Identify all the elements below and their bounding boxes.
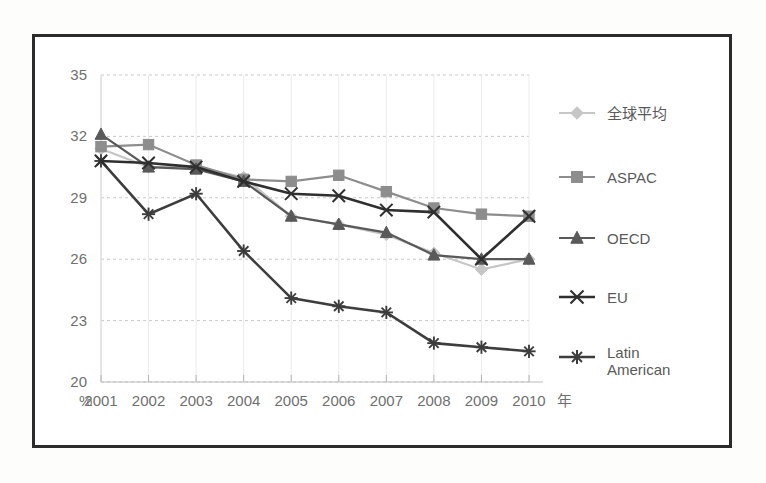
legend-label: 全球平均 [607, 105, 667, 122]
y-axis-tick-label: 35 [70, 66, 87, 83]
legend-label: EU [607, 289, 628, 306]
legend-label: Latin [607, 344, 640, 361]
y-axis-tick-label: 32 [70, 127, 87, 144]
legend-label: ASPAC [607, 169, 657, 186]
legend-label: American [607, 361, 670, 378]
x-axis-tick-label: 2005 [275, 392, 308, 409]
figure-root: 2023262932352001200220032004200520062007… [0, 0, 766, 483]
y-axis-tick-label: 26 [70, 250, 87, 267]
y-axis-tick-label: 20 [70, 373, 87, 390]
x-axis-tick-label: 2006 [322, 392, 355, 409]
x-axis-tick-label: 2003 [179, 392, 212, 409]
legend-item-global-average[interactable]: 全球平均 [559, 105, 667, 122]
legend-item-oecd[interactable]: OECD [559, 230, 651, 247]
legend-label: OECD [607, 230, 651, 247]
line-chart: 2023262932352001200220032004200520062007… [35, 37, 729, 445]
x-axis-tick-label: 2008 [417, 392, 450, 409]
y-axis-unit-label: % [79, 392, 92, 409]
x-axis-tick-label: 2010 [512, 392, 545, 409]
y-axis-tick-label: 29 [70, 189, 87, 206]
y-axis-tick-label: 23 [70, 312, 87, 329]
legend-item-eu[interactable]: EU [559, 289, 628, 306]
x-axis-tick-label: 2009 [465, 392, 498, 409]
legend-item-aspac[interactable]: ASPAC [559, 169, 657, 186]
x-axis-tick-label: 2007 [370, 392, 403, 409]
x-axis-unit-label: 年 [557, 392, 572, 409]
x-axis-tick-label: 2004 [227, 392, 260, 409]
x-axis-tick-label: 2002 [132, 392, 165, 409]
chart-outer-frame: 2023262932352001200220032004200520062007… [32, 34, 732, 448]
plot-area [101, 75, 529, 382]
legend-item-latin-american[interactable]: LatinAmerican [559, 344, 670, 378]
